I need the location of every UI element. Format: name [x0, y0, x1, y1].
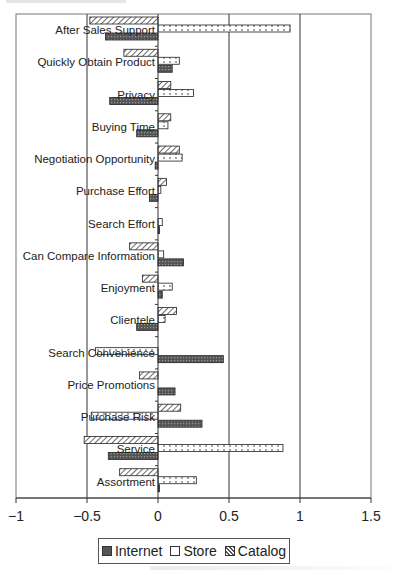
bar-internet — [158, 356, 223, 363]
legend-item-catalog: Catalog — [225, 543, 286, 559]
catalog-swatch-icon — [225, 546, 235, 556]
category-label: Buying Time — [92, 121, 155, 133]
x-tick-label: 0 — [154, 508, 162, 524]
store-swatch-icon — [170, 546, 180, 556]
bar-catalog — [130, 243, 158, 250]
category-label: Quickly Obtain Product — [37, 56, 155, 68]
bar-internet — [158, 291, 162, 298]
bar-catalog — [140, 372, 158, 379]
legend: Internet Store Catalog — [98, 538, 290, 564]
x-tick-label: −0.5 — [73, 508, 101, 524]
bar-store — [158, 154, 182, 161]
bar-store — [158, 122, 168, 129]
legend-label: Internet — [115, 543, 162, 559]
x-tick-label: −1 — [8, 508, 24, 524]
figure-caption-cropped — [150, 566, 390, 570]
bar-store — [158, 444, 283, 451]
bar-chart: After Sales SupportQuickly Obtain Produc… — [0, 0, 403, 535]
category-label: Enjoyment — [101, 282, 156, 294]
bar-catalog — [90, 17, 158, 24]
bar-store — [158, 251, 164, 258]
bar-store — [158, 90, 194, 97]
category-label: After Sales Support — [55, 24, 156, 36]
internet-swatch-icon — [102, 546, 112, 556]
bar-store — [158, 283, 172, 290]
bar-store — [158, 477, 196, 484]
bar-internet — [158, 420, 202, 427]
bar-catalog — [124, 49, 158, 56]
category-label: Assortment — [97, 476, 156, 488]
category-label: Price Promotions — [67, 379, 155, 391]
bar-store — [158, 57, 179, 64]
bar-catalog — [158, 307, 176, 314]
bar-store — [158, 219, 162, 226]
bar-catalog — [158, 114, 171, 121]
bar-internet — [158, 388, 175, 395]
category-label: Search Convenience — [48, 347, 155, 359]
bar-store — [158, 315, 165, 322]
bar-store — [158, 25, 290, 32]
legend-label: Catalog — [238, 543, 286, 559]
bar-catalog — [158, 404, 181, 411]
legend-label: Store — [183, 543, 216, 559]
bar-catalog — [158, 82, 171, 89]
legend-item-internet: Internet — [102, 543, 162, 559]
category-label: Purchase Effort — [76, 185, 156, 197]
bar-catalog — [142, 275, 158, 282]
bar-catalog — [84, 436, 158, 443]
bar-internet — [158, 65, 172, 72]
category-label: Negotiation Opportunity — [34, 153, 155, 165]
category-label: Service — [117, 443, 155, 455]
x-tick-label: 0.5 — [219, 508, 239, 524]
category-label: Privacy — [117, 89, 155, 101]
bar-internet — [158, 259, 184, 266]
bar-catalog — [158, 146, 179, 153]
bar-catalog — [120, 469, 158, 476]
legend-item-store: Store — [170, 543, 216, 559]
category-label: Purchase Risk — [81, 411, 155, 423]
category-label: Search Effort — [88, 218, 156, 230]
bar-catalog — [158, 178, 167, 185]
x-tick-label: 1 — [296, 508, 304, 524]
x-tick-label: 1.5 — [361, 508, 381, 524]
category-label: Clientele — [110, 314, 155, 326]
category-label: Can Compare Information — [23, 250, 155, 262]
